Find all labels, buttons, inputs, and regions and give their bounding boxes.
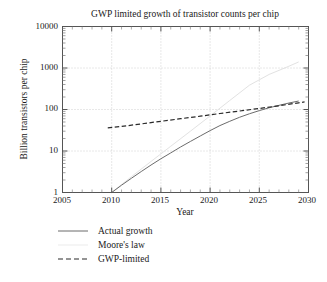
legend-item-moores-law: Moore's law — [56, 238, 153, 252]
legend-label: GWP-limited — [98, 254, 149, 264]
series-line-actual-growth — [112, 101, 299, 192]
legend-item-gwp-limited: GWP-limited — [56, 252, 153, 266]
series-line-gwp-limited — [108, 102, 305, 128]
chart-legend: Actual growth Moore's law GWP-limited — [56, 224, 153, 266]
dashed-line-key — [56, 253, 90, 265]
legend-label: Moore's law — [98, 240, 145, 250]
chart-figure: GWP limited growth of transistor counts … — [0, 0, 327, 282]
solid-line-key — [56, 225, 90, 237]
plot-area — [0, 0, 327, 282]
faint-line-key — [56, 239, 90, 251]
legend-item-actual-growth: Actual growth — [56, 224, 153, 238]
legend-label: Actual growth — [98, 226, 153, 236]
